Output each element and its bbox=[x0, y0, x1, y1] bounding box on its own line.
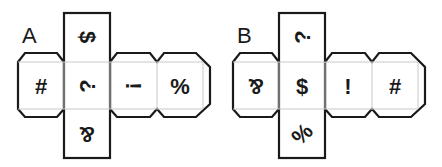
net-b-face-right1-exclamation: ! bbox=[344, 74, 351, 99]
net-a-face-right2-percent: % bbox=[170, 74, 190, 99]
net-a-face-bottom-ampersand: & bbox=[79, 122, 95, 147]
net-b-face-left-ampersand: & bbox=[248, 74, 264, 99]
net-a-face-center-question: ? bbox=[75, 79, 100, 92]
net-b-face-top-question: ? bbox=[290, 30, 315, 43]
net-a-face-left-hash: # bbox=[35, 74, 47, 99]
net-b-face-right2-hash: # bbox=[389, 74, 401, 99]
net-a-face-top-dollar: $ bbox=[75, 31, 100, 43]
net-a-face-right1-exclamation: ! bbox=[121, 82, 146, 89]
net-b: B ? & $ ! # % bbox=[233, 13, 425, 158]
net-b-right-strip bbox=[325, 53, 425, 117]
net-label-b: B bbox=[237, 23, 252, 48]
net-b-face-center-dollar: $ bbox=[296, 74, 308, 99]
net-a: A $ # ? ! % & bbox=[18, 13, 210, 158]
net-label-a: A bbox=[22, 23, 37, 48]
cube-nets-diagram: A $ # ? ! % & B ? & $ ! # bbox=[0, 0, 442, 167]
